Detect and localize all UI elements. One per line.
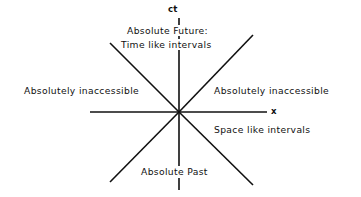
absolutely-inaccessible-left-label: Absolutely inaccessible [22,85,141,96]
absolute-past-label: Absolute Past [139,166,210,177]
absolute-future-label: Absolute Future: [125,25,210,36]
space-like-intervals-label: Space like intervals [212,124,312,135]
minkowski-diagram: ct Absolute Future: Time like intervals … [0,0,361,197]
light-cone-upper-left [110,43,179,112]
time-like-intervals-label: Time like intervals [119,39,214,50]
absolutely-inaccessible-right-label: Absolutely inaccessible [212,85,331,96]
time-axis-label: ct [167,5,179,14]
space-axis-label: x [270,107,278,116]
